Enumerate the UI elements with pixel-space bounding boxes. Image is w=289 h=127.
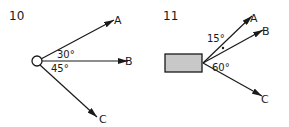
- angle-label-bc: 45°: [51, 63, 69, 74]
- origin-circle: [32, 56, 42, 66]
- force-diagrams: 10 A B C 30° 45° 11 A B C 15° 60°: [0, 0, 289, 127]
- figure-number: 11: [163, 9, 178, 23]
- vector-a-label: A: [114, 14, 122, 27]
- vector-a-label: A: [250, 12, 258, 25]
- figure-number: 10: [9, 9, 24, 23]
- vector-b-label: B: [262, 25, 270, 38]
- angle-label-bc: 60°: [212, 62, 230, 73]
- vector-c-label: C: [99, 113, 107, 126]
- vector-c-label: C: [261, 93, 269, 106]
- origin-block: [165, 54, 202, 72]
- angle-label-ab: 30°: [57, 49, 75, 60]
- angle-marker-dot: [222, 47, 224, 49]
- vector-a: [41, 20, 114, 59]
- figure-10: 10 A B C 30° 45°: [9, 9, 133, 126]
- figure-11: 11 A B C 15° 60°: [163, 9, 270, 106]
- angle-label-ab: 15°: [207, 33, 225, 44]
- vector-b-label: B: [125, 55, 133, 68]
